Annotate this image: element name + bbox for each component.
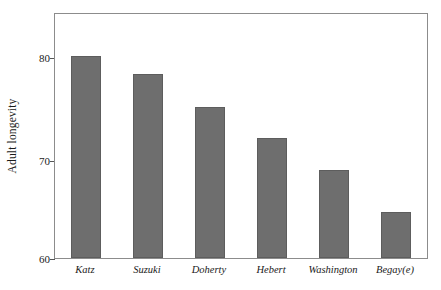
bar-begay[interactable] — [381, 212, 411, 258]
bar-doherty[interactable] — [195, 107, 225, 258]
bar-slot-4 — [303, 14, 365, 258]
y-axis-title: Adult longevity — [6, 99, 18, 174]
bar-katz[interactable] — [71, 56, 101, 258]
bar-slot-5 — [365, 14, 427, 258]
bar-hebert[interactable] — [257, 138, 287, 258]
bar-washington[interactable] — [319, 170, 349, 258]
x-tick-label-washington: Washington — [302, 264, 364, 276]
x-tick-label-hebert: Hebert — [240, 264, 302, 276]
x-tick-label-katz: Katz — [54, 264, 116, 276]
x-axis-tick-labels: Katz Suzuki Doherty Hebert Washington Be… — [54, 261, 428, 285]
x-tick-label-suzuki: Suzuki — [116, 264, 178, 276]
y-tick-label-80: 80 — [20, 53, 50, 64]
plot-frame — [54, 13, 428, 259]
plot-area — [55, 14, 427, 258]
bar-slot-3 — [241, 14, 303, 258]
x-tick-label-doherty: Doherty — [178, 264, 240, 276]
y-axis-tick-labels: 60 70 80 — [18, 0, 50, 290]
bar-chart-figure: Adult longevity 60 70 80 — [0, 0, 441, 290]
x-tick-label-begay: Begay(e) — [364, 264, 426, 276]
bar-slot-1 — [117, 14, 179, 258]
y-tick-label-60: 60 — [20, 254, 50, 265]
y-tick-label-70: 70 — [20, 156, 50, 167]
bar-slot-2 — [179, 14, 241, 258]
bar-slot-0 — [55, 14, 117, 258]
y-tick-mark-60 — [50, 259, 55, 260]
bar-suzuki[interactable] — [133, 74, 163, 258]
